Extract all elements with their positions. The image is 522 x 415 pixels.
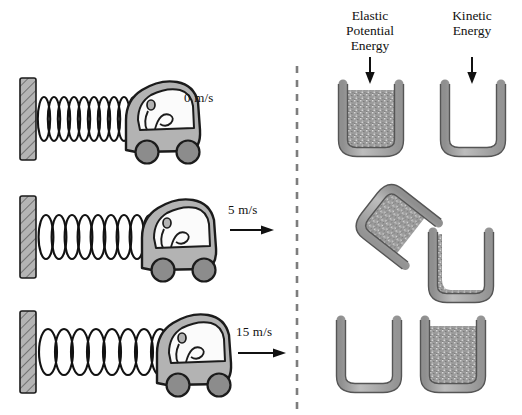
velocity-arrow-middle — [228, 222, 276, 238]
wheel-rear — [152, 259, 175, 282]
bucket-kinetic-top — [432, 82, 514, 162]
ke-line-1: Kinetic — [437, 8, 507, 23]
velocity-arrow-bottom — [236, 345, 288, 361]
speed-label-top: 0 m/s — [184, 91, 214, 106]
speed-label-bottom: 15 m/s — [236, 325, 272, 340]
panel-divider — [292, 66, 302, 411]
bucket-fill-partial — [433, 234, 489, 298]
wall-anchor — [20, 196, 36, 278]
epe-line-1: Elastic — [330, 8, 410, 23]
kinetic-energy-label: Kinetic Energy — [437, 8, 507, 38]
wheel-front — [208, 374, 231, 397]
bucket-elastic-bottom — [328, 318, 410, 398]
spring-car-row-bottom — [14, 305, 249, 405]
wall-anchor — [20, 78, 36, 160]
car — [157, 314, 231, 396]
wheel-rear — [167, 374, 190, 397]
wheel-rear — [136, 141, 159, 164]
driver-head — [178, 333, 186, 343]
bucket-kinetic-middle-filling — [420, 228, 512, 310]
bucket-empty — [341, 320, 397, 388]
driver-head — [163, 218, 171, 228]
physics-energy-diagram: 0 m/s 5 m/s — [0, 0, 522, 415]
driver-head — [147, 100, 155, 110]
spring-car-row-middle — [14, 190, 239, 290]
speed-label-middle: 5 m/s — [228, 203, 258, 218]
bucket-fill-full — [343, 90, 399, 152]
bucket-fill-full — [425, 326, 481, 388]
elastic-potential-energy-label: Elastic Potential Energy — [330, 8, 410, 53]
wheel-front — [177, 141, 200, 164]
spring-car-row-top — [14, 72, 224, 172]
kinetic-down-arrow — [465, 57, 479, 85]
bucket-empty — [445, 84, 501, 152]
ke-line-2: Energy — [437, 23, 507, 38]
elastic-down-arrow — [363, 57, 377, 85]
bucket-kinetic-bottom — [412, 318, 494, 398]
bucket-elastic-top — [330, 82, 412, 162]
car — [142, 199, 216, 281]
wheel-front — [193, 259, 216, 282]
wall-anchor — [20, 311, 36, 393]
epe-line-3: Energy — [330, 38, 410, 53]
epe-line-2: Potential — [330, 23, 410, 38]
